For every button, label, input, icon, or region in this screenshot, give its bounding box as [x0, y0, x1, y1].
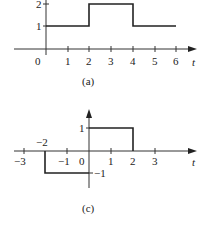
label-neg2: −2	[36, 136, 48, 148]
y-label-neg1: −1	[94, 167, 106, 179]
t-axis-label-c: t	[192, 156, 196, 168]
x-label-neg1: −1	[58, 155, 70, 167]
x-label-6: 6	[173, 55, 179, 67]
signal-line-c-positive	[89, 128, 133, 151]
x-label-1: 1	[65, 55, 71, 67]
y-label-1: 1	[36, 20, 42, 32]
chart-a: 2 1 0 1 2 3 4 5 6 t (a)	[14, 0, 197, 88]
chart-c: 1 −1 −2 −3 −1 0 1 2 3 t (c)	[14, 109, 197, 215]
x-label-4: 4	[130, 55, 136, 67]
x-label-2: 2	[86, 55, 92, 67]
y-label-1: 1	[79, 122, 85, 134]
caption-c: (c)	[82, 202, 95, 215]
x-label-3: 3	[152, 155, 158, 167]
x-label-1: 1	[108, 155, 114, 167]
caption-a: (a)	[82, 75, 95, 88]
t-axis-label-a: t	[192, 56, 196, 68]
x-label-3: 3	[108, 55, 114, 67]
x-label-5: 5	[152, 55, 158, 67]
signal-line-a	[46, 4, 176, 26]
x-label-neg3: −3	[14, 155, 26, 167]
y-axis-arrow-icon	[86, 109, 92, 118]
x-label-2: 2	[130, 155, 136, 167]
x-label-0: 0	[79, 155, 85, 167]
figure: 2 1 0 1 2 3 4 5 6 t (a)	[0, 0, 208, 226]
x-axis-arrow-icon	[188, 148, 197, 154]
y-label-2: 2	[36, 0, 42, 10]
x-label-0: 0	[35, 55, 41, 67]
x-axis-arrow-icon	[188, 46, 197, 52]
